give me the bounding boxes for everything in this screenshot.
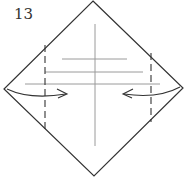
paper-outline bbox=[4, 1, 183, 176]
valley-folds bbox=[45, 45, 151, 132]
origami-diagram bbox=[0, 0, 186, 177]
fold-arrows bbox=[7, 87, 180, 98]
left-fold-arrow-icon bbox=[7, 89, 67, 98]
